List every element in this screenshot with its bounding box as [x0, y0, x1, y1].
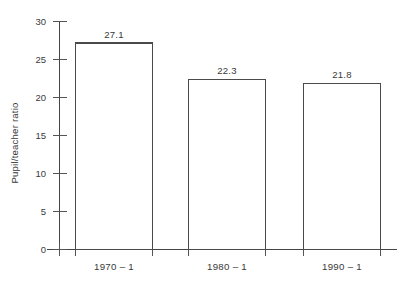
- y-tick-label-15: 15: [35, 130, 46, 141]
- x-tick-label-1980-1: 1980 – 1: [207, 261, 247, 272]
- y-tick-labels: 30 25 20 15 10 5 0: [35, 16, 46, 255]
- bar-1980-1[interactable]: [189, 80, 266, 250]
- chart-canvas: 30 25 20 15 10 5 0 27.1 22.3: [0, 0, 408, 290]
- value-label-1970-1: 27.1: [104, 29, 123, 40]
- x-tick-label-1990-1: 1990 – 1: [322, 261, 362, 272]
- x-tick-label-1970-1: 1970 – 1: [94, 261, 134, 272]
- y-tick-label-5: 5: [41, 206, 46, 217]
- y-axis-title: Pupil/teacher ratio: [9, 102, 20, 183]
- bar-1990-1[interactable]: [304, 83, 381, 249]
- y-tick-label-0: 0: [41, 244, 46, 255]
- x-tick-labels: 1970 – 1 1980 – 1 1990 – 1: [94, 261, 362, 272]
- bar-1970-1[interactable]: [76, 43, 153, 250]
- y-tick-label-30: 30: [35, 16, 46, 27]
- y-tick-label-25: 25: [35, 54, 46, 65]
- value-label-1990-1: 21.8: [332, 69, 351, 80]
- y-tick-label-20: 20: [35, 92, 46, 103]
- bar-chart-figure: 30 25 20 15 10 5 0 27.1 22.3: [0, 0, 408, 290]
- y-tick-label-10: 10: [35, 168, 46, 179]
- value-label-1980-1: 22.3: [217, 65, 236, 76]
